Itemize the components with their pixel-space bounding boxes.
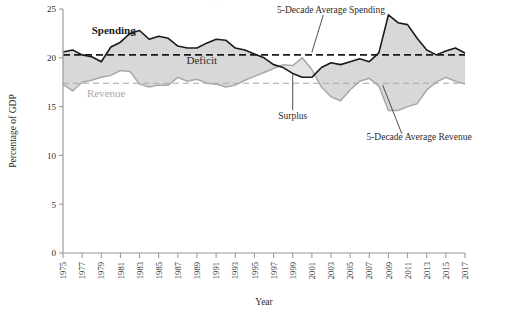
- revenue-series-label: Revenue: [87, 87, 126, 99]
- chart-canvas: · ·0510152025197519771979198119831985198…: [0, 0, 511, 311]
- y-tick-label: 25: [47, 4, 57, 14]
- x-axis-title: Year: [255, 297, 273, 307]
- deficit-area: [315, 15, 465, 111]
- x-tick-label: 2011: [403, 262, 413, 279]
- y-tick-label: 20: [47, 53, 57, 63]
- x-tick-label: 1975: [58, 262, 68, 279]
- cropped-title-ghost: · ·: [210, 0, 218, 8]
- x-tick-label: 2009: [384, 262, 394, 279]
- deficit-region-label: Deficit: [187, 54, 218, 66]
- x-tick-label: 1999: [288, 262, 298, 279]
- x-tick-label: 2003: [326, 262, 336, 279]
- y-tick-label: 5: [52, 200, 57, 210]
- y-tick-label: 0: [52, 248, 57, 258]
- avg-revenue-annotation: 5-Decade Average Revenue: [366, 132, 471, 142]
- gdp-spending-revenue-chart: · ·0510152025197519771979198119831985198…: [0, 0, 511, 311]
- x-tick-label: 1993: [230, 262, 240, 279]
- y-tick-label: 15: [47, 102, 57, 112]
- x-tick-label: 1977: [77, 261, 87, 279]
- x-tick-label: 1991: [211, 262, 221, 279]
- x-tick-label: 2007: [364, 261, 374, 279]
- surplus-region-label: Surplus: [278, 111, 307, 121]
- y-axis-title: Percentage of GDP: [8, 94, 18, 167]
- x-tick-label: 1989: [192, 262, 202, 279]
- avg-spending-leader-line: [312, 15, 323, 53]
- x-tick-label: 1997: [269, 261, 279, 279]
- x-tick-label: 2013: [422, 262, 432, 279]
- x-tick-label: 2017: [460, 261, 470, 279]
- x-tick-label: 1987: [173, 261, 183, 279]
- x-tick-label: 2001: [307, 262, 317, 279]
- y-tick-label: 10: [47, 151, 57, 161]
- x-tick-label: 1985: [154, 262, 164, 279]
- spending-series-label: Spending: [92, 24, 137, 36]
- x-tick-label: 2015: [441, 262, 451, 279]
- x-tick-label: 1995: [250, 262, 260, 279]
- x-tick-label: 1979: [96, 262, 106, 279]
- x-tick-label: 1981: [116, 262, 126, 279]
- avg-spending-annotation: 5-Decade Average Spending: [277, 5, 385, 15]
- x-tick-label: 2005: [345, 262, 355, 279]
- x-tick-label: 1983: [135, 262, 145, 279]
